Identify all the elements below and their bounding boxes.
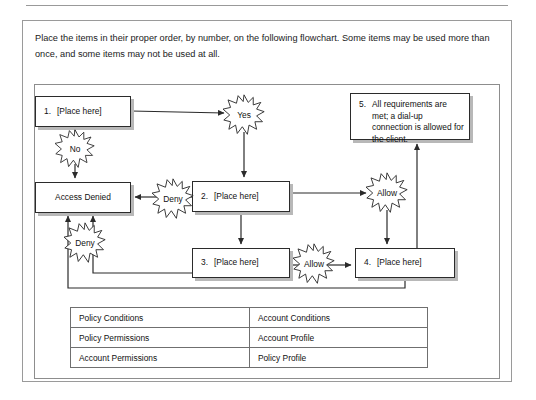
option-account-conditions[interactable]: Account Conditions (249, 308, 427, 328)
flowchart-node-1[interactable]: 1. [Place here] (35, 96, 131, 127)
option-account-permissions[interactable]: Account Permissions (71, 348, 250, 368)
node-2-label: [Place here] (214, 191, 259, 203)
node-1-number: 1. (36, 106, 57, 118)
node-access-denied-label: Access Denied (55, 192, 111, 204)
option-account-profile[interactable]: Account Profile (249, 328, 427, 348)
flowchart-node-4[interactable]: 4. [Place here] (355, 248, 455, 278)
node-1-label: [Place here] (57, 106, 102, 118)
burst-allow-from-2-label: Allow (362, 172, 412, 214)
burst-allow-from-2: Allow (362, 172, 412, 214)
options-table: Policy Conditions Account Conditions Pol… (70, 307, 428, 368)
burst-no: No (52, 129, 98, 169)
burst-no-label: No (52, 129, 98, 169)
node-5-label: All requirements are met; a dial-up conn… (372, 99, 469, 145)
burst-deny-from-3-label: Deny (60, 222, 110, 264)
burst-allow-from-3-label: Allow (288, 243, 340, 285)
node-3-label: [Place here] (214, 257, 259, 269)
node-4-label: [Place here] (377, 257, 422, 269)
table-row[interactable]: Policy Permissions Account Profile (71, 328, 428, 348)
page-root: Place the items in their proper order, b… (0, 0, 536, 400)
node-4-number: 4. (356, 257, 377, 269)
burst-yes: Yes (220, 94, 268, 136)
option-policy-conditions[interactable]: Policy Conditions (71, 308, 250, 328)
burst-yes-label: Yes (220, 94, 268, 136)
burst-deny-from-3: Deny (60, 222, 110, 264)
flowchart-node-2[interactable]: 2. [Place here] (192, 181, 290, 212)
burst-deny-from-2-label: Deny (148, 178, 198, 220)
flowchart-node-5[interactable]: 5. All requirements are met; a dial-up c… (350, 93, 470, 140)
option-policy-profile[interactable]: Policy Profile (249, 348, 427, 368)
flowchart-node-access-denied[interactable]: Access Denied (35, 182, 131, 213)
option-policy-permissions[interactable]: Policy Permissions (71, 328, 250, 348)
table-row[interactable]: Account Permissions Policy Profile (71, 348, 428, 368)
flowchart-node-3[interactable]: 3. [Place here] (192, 248, 290, 278)
node-3-number: 3. (193, 257, 214, 269)
burst-deny-from-2: Deny (148, 178, 198, 220)
node-5-number: 5. (351, 99, 372, 111)
burst-allow-from-3: Allow (288, 243, 340, 285)
table-row[interactable]: Policy Conditions Account Conditions (71, 308, 428, 328)
